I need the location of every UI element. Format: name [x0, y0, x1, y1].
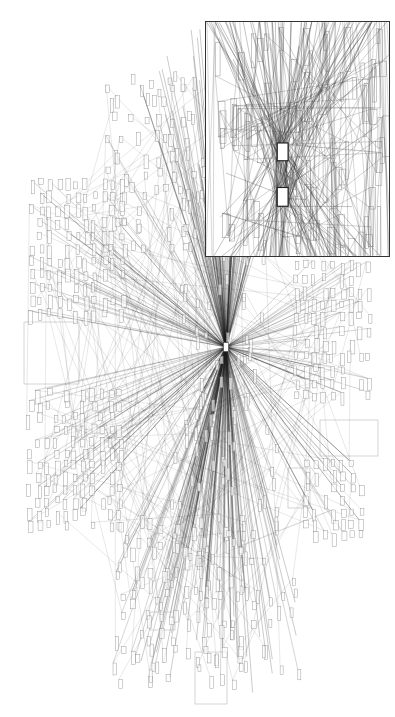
central-hub-node	[224, 343, 229, 352]
inset-edges	[206, 22, 389, 256]
zoomed-inset-panel	[205, 21, 390, 257]
inset-network-graph	[206, 22, 389, 256]
